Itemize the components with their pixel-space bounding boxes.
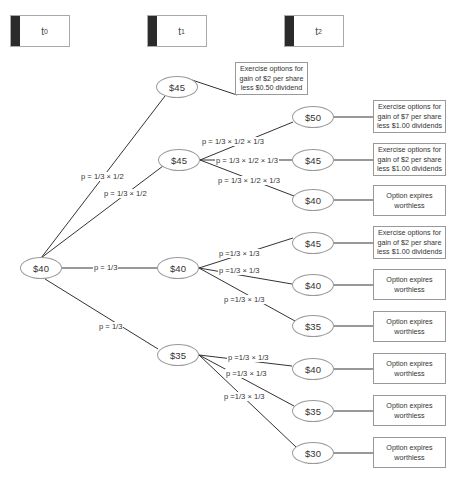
outcome-t2-e: Option expires worthless [373, 269, 446, 300]
outcome-t2-f: Option expires worthless [373, 311, 446, 342]
node-t1-down: $35 [157, 344, 199, 366]
node-t2-a: $50 [292, 106, 334, 128]
option-decision-tree: t0 t1 t2 p = 1/3 × 1/2 p = 1/3 × 1/2 p =… [0, 0, 462, 479]
timeline-t1: t1 [147, 15, 207, 47]
node-t1-up-b: $45 [158, 149, 200, 171]
prob-label: p =1/3 × 1/3 [223, 392, 266, 401]
prob-label: p = 1/3 [93, 263, 118, 272]
node-t2-e: $40 [292, 274, 334, 296]
node-root: $40 [20, 257, 62, 279]
prob-label: p =1/3 × 1/3 [218, 266, 261, 275]
outcome-t2-c: Option expires worthless [373, 185, 446, 216]
node-t1-up-a: $45 [156, 76, 198, 98]
timeline-t2: t2 [284, 15, 344, 47]
timeline-marker [285, 16, 294, 46]
node-t2-b: $45 [292, 149, 334, 171]
timeline-subscript: 2 [318, 28, 322, 35]
prob-label: p =1/3 × 1/3 [225, 369, 268, 378]
node-t2-i: $30 [292, 442, 334, 464]
prob-label: p = 1/3 × 1/2 × 1/3 [217, 176, 281, 185]
outcome-t2-i: Option expires worthless [373, 437, 446, 468]
prob-label: p = 1/3 [98, 322, 123, 331]
node-t2-d: $45 [292, 232, 334, 254]
node-t2-g: $40 [292, 358, 334, 380]
prob-label: p = 1/3 × 1/2 × 1/3 [215, 156, 279, 165]
prob-label: p =1/3 × 1/3 [223, 295, 266, 304]
outcome-t2-d: Exercise options for gain of $2 per shar… [373, 226, 446, 259]
timeline-subscript: 1 [181, 28, 185, 35]
timeline-marker [148, 16, 157, 46]
prob-label: p = 1/3 × 1/2 [80, 172, 125, 181]
timeline-subscript: 0 [44, 28, 48, 35]
node-t2-c: $40 [292, 189, 334, 211]
node-t2-h: $35 [292, 400, 334, 422]
timeline-marker [11, 16, 20, 46]
outcome-t2-g: Option expires worthless [373, 353, 446, 384]
outcome-t1-up-a: Exercise options for gain of $2 per shar… [235, 62, 308, 95]
prob-label: p =1/3 × 1/3 [218, 249, 261, 258]
outcome-t2-b: Exercise options for gain of $2 per shar… [373, 143, 446, 176]
outcome-t2-a: Exercise options for gain of $7 per shar… [373, 100, 446, 133]
timeline-t0: t0 [10, 15, 70, 47]
prob-label: p = 1/3 × 1/2 × 1/3 [201, 137, 265, 146]
outcome-t2-h: Option expires worthless [373, 395, 446, 426]
prob-label: p = 1/3 × 1/2 [103, 189, 148, 198]
prob-label: p =1/3 × 1/3 [227, 353, 270, 362]
node-t1-mid: $40 [157, 257, 199, 279]
node-t2-f: $35 [292, 315, 334, 337]
